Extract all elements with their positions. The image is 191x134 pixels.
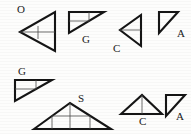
shape-label-o-row1: O — [17, 4, 25, 15]
shape-label-g-row1: G — [82, 34, 90, 45]
figure-container: O G C A G S C A — [0, 0, 191, 134]
shape-label-a-row2: A — [176, 111, 184, 122]
shape-label-a-row1: A — [177, 28, 185, 39]
shape-g-row1 — [69, 12, 104, 33]
shape-o-row1 — [20, 12, 55, 51]
shape-label-c-row1: C — [113, 43, 120, 54]
shape-label-g-row2: G — [18, 66, 26, 77]
shape-g-row2 — [15, 80, 52, 101]
shape-label-c-row2: C — [139, 116, 146, 127]
shape-c-row2 — [121, 95, 162, 114]
shape-s-row2 — [34, 103, 111, 129]
shape-label-s-row2: S — [78, 93, 84, 104]
triangles-figure — [0, 0, 191, 134]
shape-a-row1 — [159, 12, 178, 33]
shape-c-row1 — [120, 15, 141, 46]
